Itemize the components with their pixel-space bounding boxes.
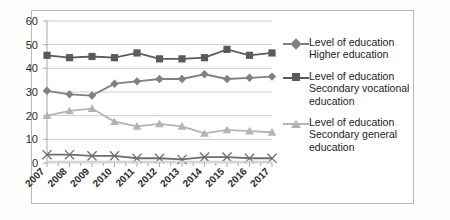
x-tick-label-2014: 2014 (180, 165, 204, 189)
data-point-marker (88, 91, 96, 99)
y-tick-label-30: 30 (26, 86, 38, 98)
data-point-marker (201, 54, 208, 61)
legend-entry-1[interactable]: Level of education Secondary vocational … (283, 70, 411, 107)
legend-label-2: Level of education Secondary general edu… (309, 116, 397, 153)
legend-label-1: Level of education Secondary vocational … (309, 70, 409, 107)
legend-key-marker (292, 40, 300, 48)
legend-key-marker (292, 73, 300, 81)
legend-marker-diamond-icon (283, 37, 309, 50)
x-axis-tick-labels: 2007200820092010201120122013201420152016… (23, 165, 272, 189)
x-tick-label-2007: 2007 (23, 165, 47, 189)
x-tick-label-2013: 2013 (158, 165, 182, 189)
legend-label-0: Level of education Higher education (309, 36, 394, 61)
gridlines-group (47, 21, 272, 163)
x-tick-label-2012: 2012 (135, 165, 159, 189)
x-tick-label-2016: 2016 (225, 165, 249, 189)
data-point-marker (133, 49, 140, 56)
legend-marker-shape (292, 73, 300, 81)
y-tick-label-20: 20 (26, 110, 38, 122)
legend-marker-square-icon (283, 71, 309, 84)
data-series-group (42, 46, 276, 164)
data-point-marker (268, 72, 276, 80)
data-point-marker (246, 52, 253, 59)
legend-marker-shape (290, 38, 301, 49)
data-point-marker (178, 55, 185, 62)
data-point-marker (268, 49, 275, 56)
x-tick-label-2015: 2015 (203, 165, 227, 189)
data-point-marker (65, 90, 73, 98)
data-point-marker (66, 54, 73, 61)
data-point-marker (43, 52, 50, 59)
x-axis-ticks (47, 163, 272, 167)
y-tick-label-10: 10 (26, 133, 38, 145)
data-point-marker (110, 117, 119, 125)
x-tick-label-2008: 2008 (45, 165, 69, 189)
x-tick-label-2017: 2017 (248, 165, 272, 189)
data-point-marker (43, 87, 51, 95)
x-tick-label-2009: 2009 (68, 165, 92, 189)
legend-entry-0[interactable]: Level of education Higher education (283, 36, 411, 61)
legend-marker-shape (291, 120, 301, 128)
y-tick-label-50: 50 (26, 39, 38, 51)
data-point-marker (156, 55, 163, 62)
chart-legend: Level of education Higher educationLevel… (283, 36, 411, 162)
data-point-marker (111, 54, 118, 61)
data-point-marker (88, 53, 95, 60)
y-tick-label-40: 40 (26, 62, 38, 74)
data-point-marker (223, 75, 231, 83)
data-point-marker (245, 74, 253, 82)
data-point-marker (133, 77, 141, 85)
y-axis-tick-labels: 0102030405060 (26, 15, 47, 169)
data-point-marker (110, 80, 118, 88)
x-tick-label-2010: 2010 (90, 165, 114, 189)
legend-entry-2[interactable]: Level of education Secondary general edu… (283, 116, 411, 153)
y-tick-label-60: 60 (26, 15, 38, 27)
legend-key-marker (291, 120, 301, 128)
data-point-marker (155, 75, 163, 83)
x-tick-label-2011: 2011 (113, 165, 136, 188)
data-point-marker (200, 70, 208, 78)
legend-marker-triangle-icon (283, 117, 309, 130)
data-point-marker (223, 46, 230, 53)
data-point-marker (178, 75, 186, 83)
